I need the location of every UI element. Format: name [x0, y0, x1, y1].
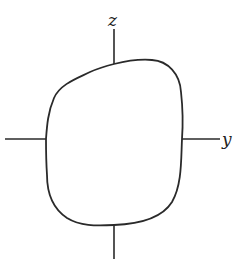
y-axis-label: y [222, 131, 232, 148]
z-axis-label: z [108, 12, 117, 29]
closed-curve [46, 60, 183, 226]
diagram-canvas: z y [0, 0, 248, 271]
diagram-figure [0, 0, 248, 271]
